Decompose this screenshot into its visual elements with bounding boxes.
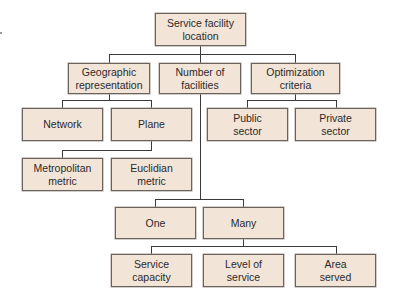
node-service-facility-location: Service facility location bbox=[155, 13, 246, 46]
connector-line bbox=[151, 100, 152, 108]
node-optimization-criteria: Optimization criteria bbox=[251, 63, 340, 94]
connector-line bbox=[247, 100, 248, 108]
node-plane: Plane bbox=[111, 108, 192, 141]
node-label: One bbox=[146, 217, 166, 230]
connector-line bbox=[151, 246, 336, 247]
node-label: Network bbox=[43, 118, 82, 131]
node-private-sector: Private sector bbox=[295, 108, 376, 141]
node-metropolitan-metric: Metropolitan metric bbox=[22, 158, 103, 191]
node-label: Level of service bbox=[225, 258, 262, 284]
node-many: Many bbox=[203, 207, 284, 239]
node-area-served: Area served bbox=[295, 254, 376, 287]
connector-line bbox=[109, 54, 296, 55]
node-label: Number of facilities bbox=[175, 66, 224, 92]
node-label: Public sector bbox=[233, 112, 262, 138]
node-geographic-representation: Geographic representation bbox=[68, 63, 150, 94]
connector-line bbox=[155, 199, 156, 207]
connector-line bbox=[155, 199, 244, 200]
node-label: Plane bbox=[138, 118, 165, 131]
node-label: Geographic representation bbox=[75, 66, 142, 92]
connector-line bbox=[62, 100, 152, 101]
node-public-sector: Public sector bbox=[207, 108, 288, 141]
node-network: Network bbox=[22, 108, 103, 141]
node-label: Area served bbox=[320, 258, 352, 284]
node-service-capacity: Service capacity bbox=[111, 254, 192, 287]
connector-line bbox=[336, 100, 337, 108]
node-label: Euclidian metric bbox=[130, 162, 173, 188]
connector-line bbox=[336, 246, 337, 254]
node-label: Service facility location bbox=[167, 17, 234, 43]
node-euclidian-metric: Euclidian metric bbox=[111, 158, 192, 191]
connector-line bbox=[247, 100, 337, 101]
scan-mark bbox=[0, 32, 2, 34]
connector-line bbox=[62, 150, 152, 151]
connector-line bbox=[62, 100, 63, 108]
connector-line bbox=[295, 54, 296, 63]
node-level-of-service: Level of service bbox=[203, 254, 284, 287]
connector-line bbox=[243, 199, 244, 207]
node-label: Service capacity bbox=[132, 258, 171, 284]
node-label: Private sector bbox=[319, 112, 352, 138]
node-label: Metropolitan metric bbox=[34, 162, 92, 188]
connector-line bbox=[109, 54, 110, 63]
connector-line bbox=[151, 246, 152, 254]
node-label: Optimization criteria bbox=[266, 66, 324, 92]
node-label: Many bbox=[231, 217, 257, 230]
node-number-of-facilities: Number of facilities bbox=[159, 63, 241, 94]
node-one: One bbox=[115, 207, 196, 239]
connector-line bbox=[62, 150, 63, 158]
